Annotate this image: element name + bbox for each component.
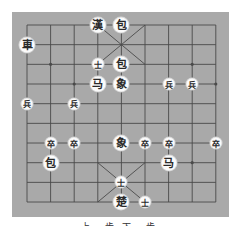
piece-chariot[interactable]: 車 <box>20 37 35 52</box>
piece-cannon[interactable]: 包 <box>114 57 129 72</box>
piece-elephant[interactable]: 象 <box>114 136 129 151</box>
piece-horse[interactable]: 马 <box>90 77 105 92</box>
star-point <box>49 63 52 66</box>
star-point <box>191 63 194 66</box>
piece-soldier[interactable]: 卒 <box>210 138 221 149</box>
piece-advisor[interactable]: 士 <box>140 197 151 208</box>
piece-advisor[interactable]: 士 <box>116 177 127 188</box>
piece-soldier[interactable]: 兵 <box>163 79 174 90</box>
piece-general[interactable]: 楚 <box>114 195 129 210</box>
piece-soldier[interactable]: 卒 <box>140 138 151 149</box>
star-point <box>191 161 194 164</box>
piece-soldier[interactable]: 卒 <box>163 138 174 149</box>
piece-general[interactable]: 漢 <box>90 18 105 33</box>
piece-soldier[interactable]: 兵 <box>187 79 198 90</box>
piece-elephant[interactable]: 象 <box>114 77 129 92</box>
piece-soldier[interactable]: 兵 <box>69 98 80 109</box>
xiangqi-board[interactable]: 漢包車士包马象兵兵兵兵卒卒象卒卒卒包马士楚士 <box>12 12 229 217</box>
piece-soldier[interactable]: 卒 <box>69 138 80 149</box>
piece-cannon[interactable]: 包 <box>114 18 129 33</box>
piece-advisor[interactable]: 士 <box>92 59 103 70</box>
piece-soldier[interactable]: 卒 <box>45 138 56 149</box>
piece-cannon[interactable]: 包 <box>43 155 58 170</box>
piece-horse[interactable]: 马 <box>161 155 176 170</box>
star-point <box>73 82 76 85</box>
piece-soldier[interactable]: 兵 <box>22 98 33 109</box>
move-caption[interactable]: 上一步 下一步 <box>0 220 239 226</box>
star-point <box>214 82 217 85</box>
